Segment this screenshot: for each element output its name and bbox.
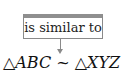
similar-symbol: ~ <box>56 53 69 72</box>
relation-label: is similar to <box>24 20 102 35</box>
triangle-icon: △ <box>75 53 87 72</box>
triangle-icon: △ <box>3 53 15 72</box>
triangle-abc-name: ABC <box>15 53 51 72</box>
similarity-statement: △ABC ~ △XYZ <box>3 52 123 74</box>
relation-label-box: is similar to <box>23 14 103 39</box>
triangle-xyz-name: XYZ <box>87 53 120 72</box>
